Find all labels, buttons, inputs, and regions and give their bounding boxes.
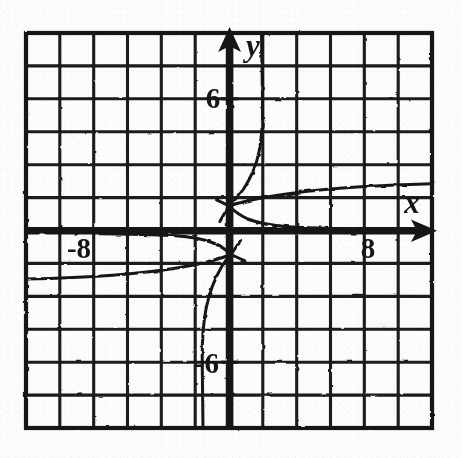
graph-svg: 6 -6 -8 8 y x: [0, 0, 462, 458]
x-tick-label-8: 8: [361, 232, 376, 264]
graph-page: 6 -6 -8 8 y x: [0, 0, 462, 458]
x-axis-label: x: [403, 185, 420, 220]
x-tick-label-neg8: -8: [67, 232, 91, 264]
y-tick-label-6: 6: [206, 82, 221, 114]
y-tick-label-neg6: -6: [195, 347, 219, 379]
coordinate-graph-figure: 6 -6 -8 8 y x: [0, 0, 462, 458]
